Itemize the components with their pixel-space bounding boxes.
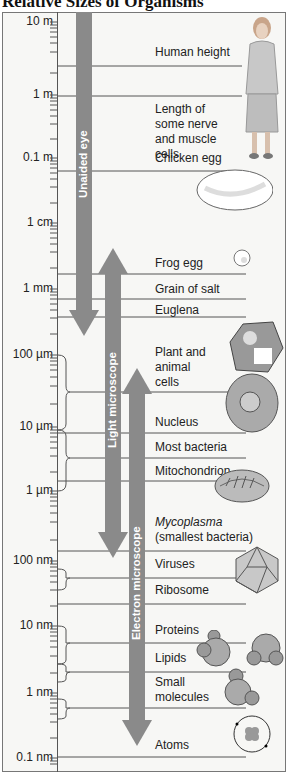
electron-microscope-down-arrowhead-icon [122, 720, 152, 746]
electron-microscope-label: Electron microscope [130, 526, 142, 640]
label-ribosome: Ribosome [155, 583, 209, 598]
label-mycoplasma: Mycoplasma [155, 515, 222, 530]
atom-icon [232, 714, 272, 754]
plant-cell-icon [228, 320, 286, 378]
label-chicken-egg: Chicken egg [155, 151, 222, 166]
label-plant-animal-cells: Plant and animal cells [155, 345, 215, 390]
unaided-eye-arrowhead-icon [69, 310, 99, 336]
label-small-molecules: Small molecules [155, 675, 210, 705]
mitochondrion-icon [212, 464, 270, 504]
chicken-egg-icon [193, 166, 273, 216]
label-proteins: Proteins [155, 623, 199, 638]
virus-icon [232, 545, 282, 595]
label-atoms: Atoms [155, 738, 189, 753]
label-lipids: Lipids [155, 651, 186, 666]
label-viruses: Viruses [155, 557, 195, 572]
unaided-eye-label: Unaided eye [77, 130, 89, 198]
label-most-bacteria: Most bacteria [155, 440, 227, 455]
label-euglena: Euglena [155, 303, 199, 318]
human-figure-icon [238, 14, 288, 164]
label-frog-egg: Frog egg [155, 256, 203, 271]
light-microscope-up-arrowhead-icon [98, 248, 128, 274]
small-molecule-icon [220, 668, 260, 713]
label-smallest-bacteria: (smallest bacteria) [155, 530, 253, 545]
label-human-height: Human height [155, 45, 230, 60]
animal-cell-icon [224, 372, 280, 434]
electron-microscope-up-arrowhead-icon [122, 368, 152, 394]
label-nucleus: Nucleus [155, 415, 198, 430]
light-microscope-label: Light microscope [106, 352, 118, 448]
light-microscope-down-arrowhead-icon [98, 532, 128, 558]
frog-egg-icon [232, 248, 252, 268]
label-grain-of-salt: Grain of salt [155, 282, 220, 297]
